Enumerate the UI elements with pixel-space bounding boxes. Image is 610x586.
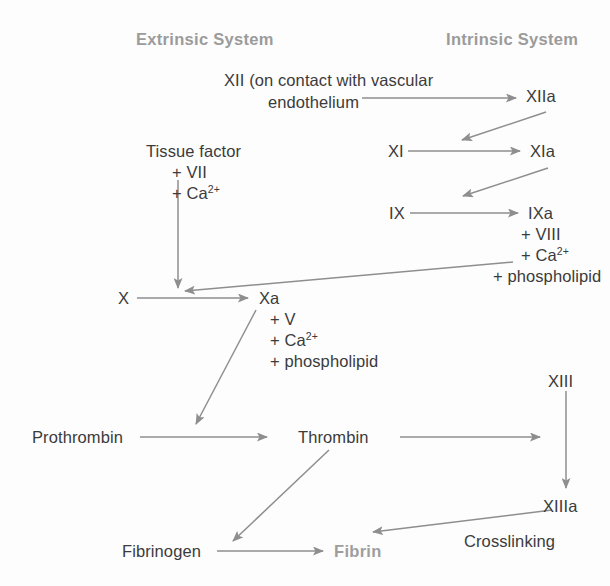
ixa-calcium-superscript: 2+ — [557, 245, 569, 257]
node-prothrombin: Prothrombin — [32, 427, 123, 447]
node-thrombin: Thrombin — [298, 427, 369, 447]
xa-calcium-superscript: 2+ — [306, 330, 318, 342]
node-x: X — [118, 288, 129, 308]
node-xa-cofactor-calcium: + Ca2+ — [270, 330, 318, 350]
node-ix: IX — [389, 203, 405, 223]
header-intrinsic-system: Intrinsic System — [446, 29, 578, 49]
node-tf-cofactor-vii: + VII — [172, 162, 207, 182]
node-ixa-cofactor-viii: + VIII — [521, 224, 561, 244]
ixa-calcium-text: + Ca — [521, 246, 557, 264]
arrow-xiiia-crosslinking-fibrin — [373, 510, 552, 532]
node-xa-cofactor-phospholipid: + phospholipid — [270, 351, 378, 371]
node-xii-line2: endothelium — [268, 92, 359, 112]
arrow-xiia-catalyzes-xi — [462, 112, 546, 140]
arrow-xia-catalyzes-ix — [463, 168, 548, 196]
arrow-intrinsic-to-xa — [185, 262, 513, 291]
node-ixa: IXa — [528, 203, 553, 223]
tf-calcium-text: + Ca — [172, 184, 208, 202]
arrow-thrombin-to-fibrin — [233, 450, 329, 541]
node-xia: XIa — [530, 141, 555, 161]
node-xi: XI — [388, 141, 404, 161]
node-xiii: XIII — [548, 371, 573, 391]
arrow-xa-to-thrombin — [196, 310, 256, 424]
header-extrinsic-system: Extrinsic System — [136, 29, 274, 49]
coagulation-cascade-diagram: Extrinsic System Intrinsic System XII (o… — [0, 0, 610, 586]
node-xa: Xa — [259, 288, 279, 308]
node-tf-cofactor-calcium: + Ca2+ — [172, 183, 220, 203]
node-xiiia: XIIIa — [543, 496, 577, 516]
node-fibrinogen: Fibrinogen — [122, 541, 201, 561]
tf-calcium-superscript: 2+ — [208, 183, 220, 195]
node-ixa-cofactor-phospholipid: + phospholipid — [493, 266, 601, 286]
node-tissue-factor: Tissue factor — [146, 141, 241, 161]
node-xa-cofactor-v: + V — [270, 309, 296, 329]
xa-calcium-text: + Ca — [270, 331, 306, 349]
node-xiia: XIIa — [526, 86, 556, 106]
node-xii-line1: XII (on contact with vascular — [224, 70, 433, 90]
label-crosslinking: Crosslinking — [464, 531, 555, 551]
node-fibrin: Fibrin — [334, 541, 382, 561]
node-ixa-cofactor-calcium: + Ca2+ — [521, 245, 569, 265]
